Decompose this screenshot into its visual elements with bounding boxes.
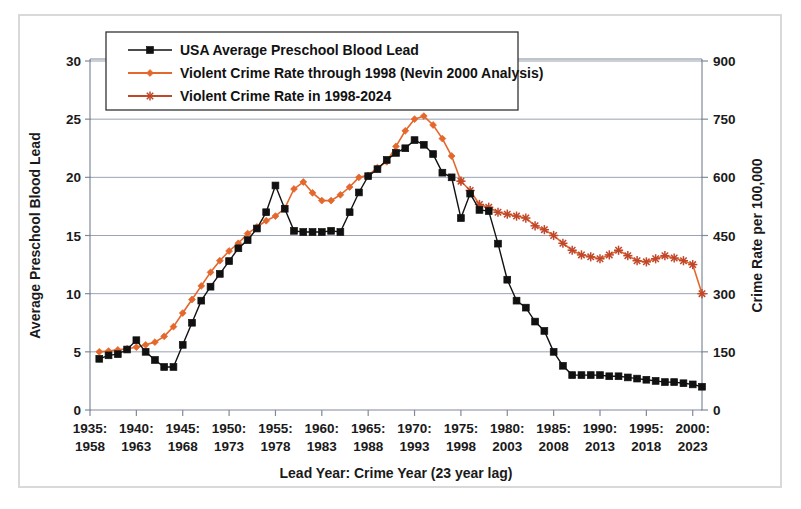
- data-point-series-1: [272, 182, 279, 189]
- y2-axis-tick-label: 0: [713, 403, 721, 418]
- data-point-series-1: [476, 207, 483, 214]
- data-point-series-1: [411, 137, 418, 144]
- x-axis-crime-year-label: 1958: [75, 439, 106, 454]
- data-point-series-2: [448, 153, 455, 160]
- x-axis-lead-year-label: 1975:: [444, 421, 479, 436]
- x-axis-crime-year-label: 2018: [631, 439, 662, 454]
- x-axis-lead-year-label: 1970:: [397, 421, 432, 436]
- y2-axis-title: Crime Rate per 100,000: [749, 158, 765, 312]
- data-point-series-1: [263, 209, 270, 216]
- data-point-series-1: [458, 215, 465, 222]
- data-point-series-2: [133, 344, 140, 351]
- chart-page: 05101520253001503004506007509001935:1958…: [0, 0, 801, 509]
- data-point-series-1: [485, 208, 492, 215]
- data-point-series-1: [346, 209, 353, 216]
- x-axis-crime-year-label: 2003: [492, 439, 523, 454]
- data-point-series-3: [530, 221, 539, 230]
- data-point-series-1: [309, 229, 316, 236]
- data-point-series-3: [670, 253, 679, 262]
- data-point-series-1: [689, 381, 696, 388]
- x-axis-lead-year-label: 1965:: [351, 421, 386, 436]
- y2-axis-tick-label: 600: [713, 170, 736, 185]
- data-point-series-1: [124, 346, 131, 353]
- x-axis-crime-year-label: 1968: [168, 439, 199, 454]
- data-point-series-1: [587, 372, 594, 379]
- data-point-series-1: [606, 373, 613, 380]
- data-point-series-1: [383, 156, 390, 163]
- data-point-series-3: [697, 289, 706, 298]
- data-point-series-1: [439, 169, 446, 176]
- data-point-series-1: [281, 205, 288, 212]
- data-point-series-1: [105, 352, 112, 359]
- legend-label-2: Violent Crime Rate through 1998 (Nevin 2…: [180, 65, 543, 81]
- data-point-series-1: [142, 348, 149, 355]
- y2-axis-tick-label: 750: [713, 112, 736, 127]
- legend-label-1: USA Average Preschool Blood Lead: [180, 42, 419, 58]
- data-point-series-1: [522, 304, 529, 311]
- data-point-series-3: [456, 177, 465, 186]
- data-point-series-3: [540, 225, 549, 234]
- x-axis-crime-year-label: 2008: [539, 439, 570, 454]
- data-point-series-3: [512, 212, 521, 221]
- data-point-series-1: [597, 372, 604, 379]
- data-point-series-3: [623, 251, 632, 260]
- data-point-series-3: [577, 250, 586, 259]
- x-axis-crime-year-label: 1978: [260, 439, 291, 454]
- x-axis-crime-year-label: 1973: [214, 439, 245, 454]
- data-point-series-1: [680, 380, 687, 387]
- data-point-series-1: [207, 283, 214, 290]
- data-point-series-1: [318, 229, 325, 236]
- x-axis-title: Lead Year: Crime Year (23 year lag): [280, 465, 513, 481]
- data-point-series-1: [634, 375, 641, 382]
- data-point-series-1: [216, 270, 223, 277]
- data-point-series-1: [569, 372, 576, 379]
- x-axis-crime-year-label: 1998: [446, 439, 477, 454]
- x-axis-lead-year-label: 2000:: [675, 421, 710, 436]
- data-point-series-1: [662, 379, 669, 386]
- data-point-series-1: [652, 378, 659, 385]
- data-point-series-3: [679, 256, 688, 265]
- data-point-series-1: [420, 141, 427, 148]
- data-point-series-1: [328, 227, 335, 234]
- x-axis-lead-year-label: 1935:: [73, 421, 108, 436]
- data-point-series-1: [643, 376, 650, 383]
- y2-axis-tick-label: 150: [713, 345, 736, 360]
- data-point-series-1: [198, 297, 205, 304]
- data-point-series-1: [300, 229, 307, 236]
- data-point-series-1: [226, 258, 233, 265]
- data-point-series-1: [152, 357, 159, 364]
- y-axis-tick-label: 0: [73, 403, 81, 418]
- data-point-series-1: [578, 372, 585, 379]
- data-point-series-1: [393, 150, 400, 157]
- lead-crime-line-chart: 05101520253001503004506007509001935:1958…: [20, 16, 780, 486]
- data-point-series-3: [651, 254, 660, 263]
- x-axis-lead-year-label: 1990:: [583, 421, 618, 436]
- data-point-series-1: [504, 276, 511, 283]
- data-point-series-1: [179, 341, 186, 348]
- data-point-series-1: [550, 348, 557, 355]
- data-point-series-3: [614, 246, 623, 255]
- data-point-series-1: [402, 145, 409, 152]
- legend-marker-3: [145, 91, 154, 100]
- y-axis-title: Average Preschool Blood Lead: [27, 132, 43, 338]
- data-point-series-1: [495, 240, 502, 247]
- y-axis-tick-label: 20: [66, 170, 81, 185]
- x-axis-lead-year-label: 1960:: [305, 421, 340, 436]
- legend-marker-1: [147, 47, 154, 54]
- y2-axis-tick-label: 900: [713, 54, 736, 69]
- data-point-series-2: [142, 341, 149, 348]
- data-point-series-1: [161, 364, 168, 371]
- x-axis-lead-year-label: 1955:: [258, 421, 293, 436]
- data-point-series-1: [254, 225, 261, 232]
- data-point-series-3: [586, 252, 595, 261]
- data-point-series-1: [624, 374, 631, 381]
- data-point-series-3: [503, 210, 512, 219]
- x-axis-lead-year-label: 1980:: [490, 421, 525, 436]
- data-point-series-1: [430, 151, 437, 158]
- data-point-series-1: [170, 364, 177, 371]
- y-axis-tick-label: 10: [66, 287, 81, 302]
- data-point-series-2: [96, 348, 103, 355]
- data-point-series-1: [291, 227, 298, 234]
- figure-frame: 05101520253001503004506007509001935:1958…: [18, 14, 782, 488]
- data-point-series-3: [605, 250, 614, 259]
